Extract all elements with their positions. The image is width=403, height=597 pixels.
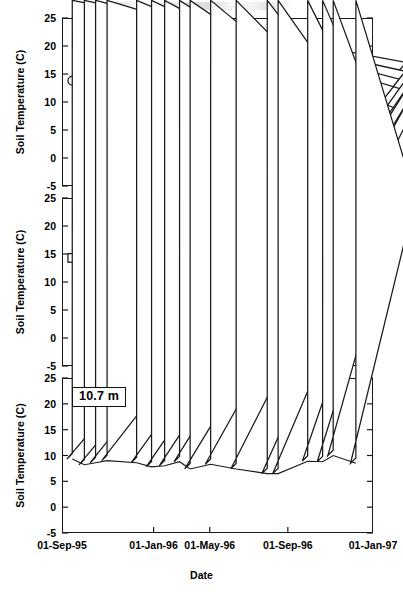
y-tick-label: 20 — [22, 220, 56, 232]
scan-artifact-top — [78, 2, 293, 10]
y-tick-label: 0 — [22, 152, 56, 164]
y-tick-label: -5 — [22, 180, 56, 192]
y-tick-label: 20 — [22, 40, 56, 52]
y-tick-label: 15 — [22, 248, 56, 260]
x-tick-label: 01-Sep-95 — [37, 539, 87, 551]
y-tick-label: 5 — [22, 124, 56, 136]
y-tick-label: 25 — [22, 12, 56, 24]
depth-label-3: 10.7 m — [72, 387, 126, 407]
x-tick-label: 01-Sep-96 — [263, 539, 313, 551]
figure-container: Soil Temperature (C)2520151050-50.6 mSoi… — [0, 0, 403, 597]
x-tick-label: 01-May-96 — [184, 539, 235, 551]
y-tick-label: -5 — [22, 360, 56, 372]
y-tick-label: -5 — [22, 527, 56, 539]
y-tick-label: 5 — [22, 475, 56, 487]
y-tick-label: 25 — [22, 372, 56, 384]
y-tick-label: 10 — [22, 276, 56, 288]
y-tick-label: 0 — [22, 501, 56, 513]
y-tick-label: 15 — [22, 424, 56, 436]
depth-label-1: 0.6 m — [72, 27, 119, 47]
x-tick-label: 01-Jan-96 — [129, 539, 177, 551]
y-tick-label: 10 — [22, 96, 56, 108]
x-axis-title: Date — [0, 569, 403, 581]
y-tick-label: 25 — [22, 192, 56, 204]
y-tick-label: 5 — [22, 304, 56, 316]
y-tick-label: 15 — [22, 68, 56, 80]
y-tick-label: 20 — [22, 398, 56, 410]
y-tick-label: 10 — [22, 450, 56, 462]
x-tick-label: 01-Jan-97 — [349, 539, 397, 551]
y-tick-label: 0 — [22, 332, 56, 344]
depth-label-2: 3.0 m — [72, 207, 119, 227]
